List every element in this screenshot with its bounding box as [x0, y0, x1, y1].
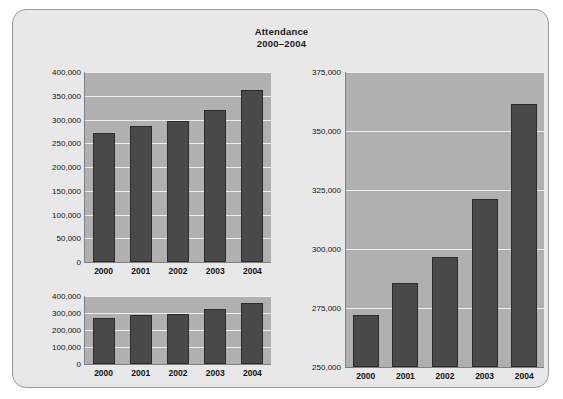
y-axis-tick-label: 250,000: [285, 363, 341, 372]
x-axis-tick-label: 2003: [465, 371, 505, 381]
y-axis-tick-label: 300,000: [285, 245, 341, 254]
x-axis-tick-label: 2002: [425, 371, 465, 381]
y-axis-tick-label: 350,000: [285, 127, 341, 136]
bar: [432, 257, 458, 367]
gridline: [346, 72, 544, 73]
y-axis-tick-label: 375,000: [285, 68, 341, 77]
y-axis-tick-label: 325,000: [285, 186, 341, 195]
x-axis-tick-label: 2000: [346, 371, 386, 381]
chart-panel: Attendance 2000–2004 050,000100,000150,0…: [12, 9, 549, 388]
y-axis-tick-label: 275,000: [285, 304, 341, 313]
x-axis-tick-label: 2001: [386, 371, 426, 381]
x-axis-tick-label: 2004: [504, 371, 544, 381]
right-plot-area: [346, 72, 544, 367]
bar: [472, 199, 498, 367]
right-chart: 250,000275,000300,000325,000350,000375,0…: [13, 10, 550, 389]
right-y-axis: [345, 72, 346, 368]
bar: [353, 315, 379, 367]
right-x-axis: [345, 367, 544, 368]
bar: [511, 104, 537, 367]
bar: [392, 283, 418, 367]
